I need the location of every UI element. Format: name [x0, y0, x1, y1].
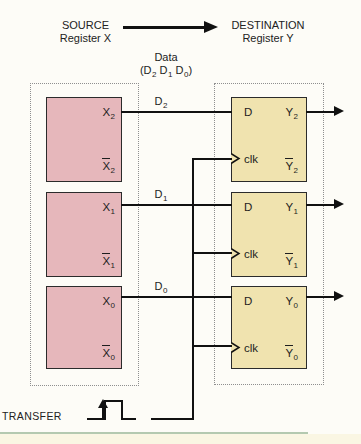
y0-output-wire	[306, 296, 336, 298]
y1-sub: 1	[294, 207, 298, 216]
d1-sub: 1	[163, 194, 167, 203]
rising-edge-arrow-shaft	[102, 407, 104, 420]
d0-sub: 0	[163, 286, 167, 295]
data-bus-bits-label: (D2 D1 D0)	[122, 64, 210, 78]
rising-edge-arrowhead-icon	[98, 399, 108, 408]
clock-distribution-wire	[192, 158, 194, 420]
y1-clock-branch-wire	[192, 252, 232, 254]
y0-clock-edge-triangle-icon	[231, 342, 241, 354]
y1bar-sub: 1	[294, 261, 298, 270]
transfer-pulse-falling-edge	[121, 400, 123, 420]
y2-output-label: Y2	[285, 106, 298, 118]
y0-output-arrowhead-icon	[334, 291, 344, 301]
x1bar-sub: 1	[111, 261, 115, 270]
x1-output-label: X1	[102, 201, 115, 213]
y2-base: Y	[285, 106, 293, 118]
d0-wire-label: D0	[143, 280, 179, 363]
x0-complement-label: X0	[102, 345, 115, 360]
y0-clock-branch-wire	[192, 345, 232, 347]
x1-complement-label: X1	[102, 253, 115, 268]
x0-base: X	[102, 295, 110, 307]
source-cell-x1: X1 X1	[46, 192, 122, 277]
flipflop-cell-y0: D Y0 clk Y0	[231, 286, 307, 369]
y1-clk-label: clk	[244, 248, 258, 260]
y0-base: Y	[285, 295, 293, 307]
x2bar-base: X	[102, 158, 110, 173]
y2-output-wire	[306, 111, 336, 113]
d1-wire-label: D1	[143, 188, 179, 273]
d0-base: D	[155, 280, 163, 292]
transfer-pulse-baseline-tail	[121, 418, 136, 420]
d2-base: D	[155, 95, 163, 107]
destination-register-heading: DESTINATION Register Y	[216, 19, 320, 45]
flipflop-cell-y2: D Y2 clk Y2	[231, 97, 307, 182]
y2-clock-branch-wire	[192, 158, 232, 160]
x1-sub: 1	[111, 207, 115, 216]
x0-output-label: X0	[102, 295, 115, 307]
y1-output-arrowhead-icon	[334, 199, 344, 209]
bits-text: D	[156, 64, 167, 76]
x0bar-sub: 0	[111, 353, 115, 362]
x1bar-base: X	[102, 253, 110, 268]
bits-text: D	[172, 64, 183, 76]
flipflop-cell-y1: D Y1 clk Y1	[231, 192, 307, 277]
bits-text: (D	[140, 64, 152, 76]
source-register-heading: SOURCE Register X	[38, 19, 133, 45]
d2-wire-label: D2	[143, 95, 179, 180]
x2-sub: 2	[111, 112, 115, 121]
register-transfer-diagram: SOURCE Register X DESTINATION Register Y…	[0, 0, 361, 444]
x2-complement-label: X2	[102, 158, 115, 173]
y0bar-sub: 0	[294, 353, 298, 362]
bits-sub: 2	[152, 70, 156, 79]
y1-output-label: Y1	[285, 201, 298, 213]
x1-base: X	[102, 201, 110, 213]
destination-subtitle: Register Y	[216, 32, 320, 45]
source-cell-x0: X0 X0	[46, 286, 122, 369]
source-subtitle: Register X	[38, 32, 133, 45]
y1bar-base: Y	[285, 253, 293, 268]
y2bar-sub: 2	[294, 166, 298, 175]
page-bottom-strip	[0, 434, 361, 444]
data-bus-title: Data	[130, 51, 202, 64]
y2bar-base: Y	[285, 158, 293, 173]
d1-base: D	[155, 188, 163, 200]
bits-sub: 0	[184, 70, 188, 79]
transfer-label: TRANSFER	[2, 410, 62, 422]
x2-output-label: X2	[102, 106, 115, 118]
y2-complement-label: Y2	[285, 158, 298, 173]
y2-clock-edge-triangle-icon	[231, 153, 241, 165]
y2-sub: 2	[294, 112, 298, 121]
y2-d-input-label: D	[244, 106, 252, 118]
y0-complement-label: Y0	[285, 345, 298, 360]
bits-sub: 1	[168, 70, 172, 79]
y1-base: Y	[285, 201, 293, 213]
x2bar-sub: 2	[111, 166, 115, 175]
transfer-direction-arrow	[123, 26, 206, 29]
transfer-line-to-clock	[151, 418, 194, 420]
y0bar-base: Y	[285, 345, 293, 360]
y1-output-wire	[306, 204, 336, 206]
d2-sub: 2	[163, 101, 167, 110]
y1-clock-edge-triangle-icon	[231, 248, 241, 260]
y1-complement-label: Y1	[285, 253, 298, 268]
y2-output-arrowhead-icon	[334, 106, 344, 116]
y0-clk-label: clk	[244, 342, 258, 354]
destination-title: DESTINATION	[216, 19, 320, 32]
x0-sub: 0	[111, 301, 115, 310]
y2-clk-label: clk	[244, 153, 258, 165]
x2-base: X	[102, 106, 110, 118]
x0bar-base: X	[102, 345, 110, 360]
y0-d-input-label: D	[244, 295, 252, 307]
y0-sub: 0	[294, 301, 298, 310]
source-cell-x2: X2 X2	[46, 97, 122, 182]
y0-output-label: Y0	[285, 295, 298, 307]
y1-d-input-label: D	[244, 201, 252, 213]
source-title: SOURCE	[38, 19, 133, 32]
bits-text: )	[188, 64, 192, 76]
